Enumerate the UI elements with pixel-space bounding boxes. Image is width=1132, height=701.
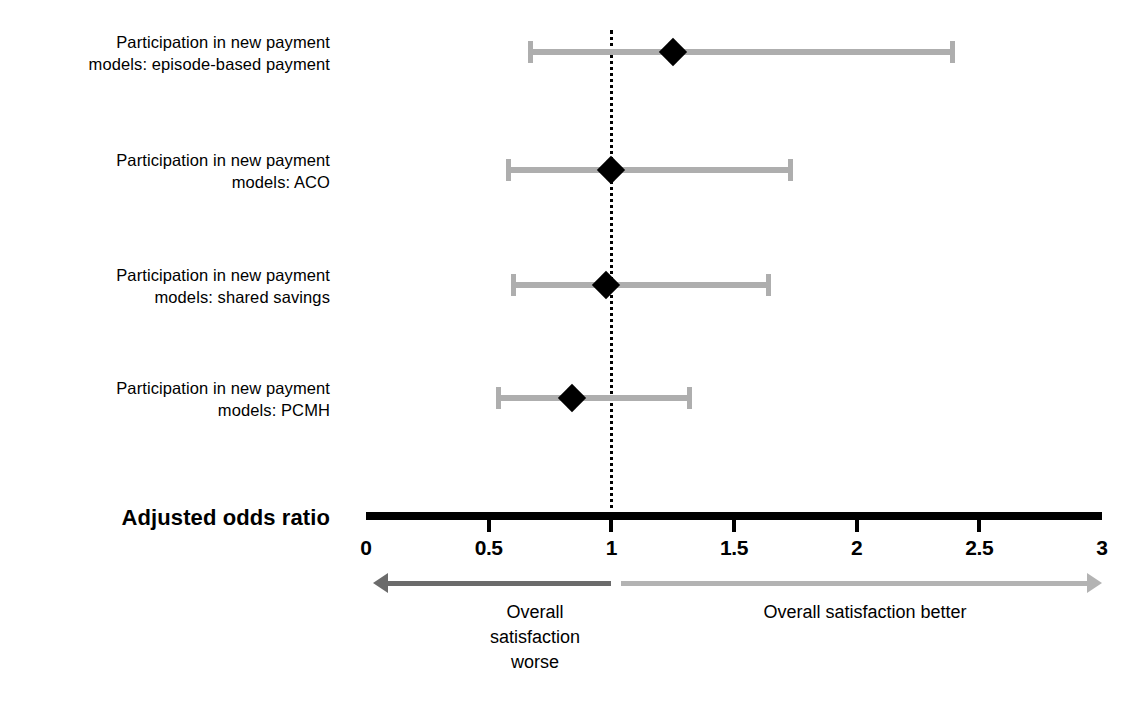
- ci-cap-low-aco: [506, 159, 511, 181]
- x-axis-tick-label: 1.5: [704, 536, 764, 560]
- x-axis-tick-label: 1: [581, 536, 641, 560]
- point-estimate-aco: [597, 156, 625, 184]
- ci-cap-low-pcmh: [496, 387, 501, 409]
- arrow-shaft-better: [621, 581, 1088, 586]
- caption-satisfaction-worse: Overall satisfaction worse: [460, 600, 610, 675]
- ci-line-pcmh: [496, 395, 692, 401]
- point-estimate-shared-savings: [592, 271, 620, 299]
- x-axis-tick: [855, 520, 859, 532]
- x-axis-tick-label: 0.5: [459, 536, 519, 560]
- ci-cap-low-episode-based-payment: [528, 41, 533, 63]
- x-axis-tick: [609, 520, 613, 532]
- x-axis-tick: [487, 520, 491, 532]
- ci-cap-high-aco: [788, 159, 793, 181]
- x-axis-line: [366, 512, 1102, 520]
- reference-line-or-1: [610, 30, 613, 516]
- arrow-right-icon: [1087, 573, 1102, 593]
- ci-line-shared-savings: [511, 282, 771, 288]
- forest-plot-figure: Participation in new payment models: epi…: [0, 0, 1132, 701]
- point-estimate-pcmh: [558, 384, 586, 412]
- ci-line-episode-based-payment: [528, 49, 955, 55]
- ci-cap-low-shared-savings: [511, 274, 516, 296]
- x-axis-tick: [732, 520, 736, 532]
- ci-line-aco: [506, 167, 793, 173]
- arrow-shaft-worse: [387, 581, 611, 586]
- x-axis-tick-label: 2.5: [949, 536, 1009, 560]
- caption-satisfaction-better: Overall satisfaction better: [630, 600, 1100, 625]
- point-estimate-episode-based-payment: [659, 38, 687, 66]
- ci-cap-high-shared-savings: [766, 274, 771, 296]
- x-axis-tick-label: 3: [1072, 536, 1132, 560]
- plot-area: 00.511.522.53: [0, 0, 1132, 701]
- x-axis-tick-label: 2: [827, 536, 887, 560]
- arrow-left-icon: [373, 573, 388, 593]
- x-axis-tick-label: 0: [336, 536, 396, 560]
- ci-cap-high-pcmh: [687, 387, 692, 409]
- axis-title-adjusted-odds-ratio: Adjusted odds ratio: [30, 505, 330, 531]
- x-axis-tick: [977, 520, 981, 532]
- ci-cap-high-episode-based-payment: [950, 41, 955, 63]
